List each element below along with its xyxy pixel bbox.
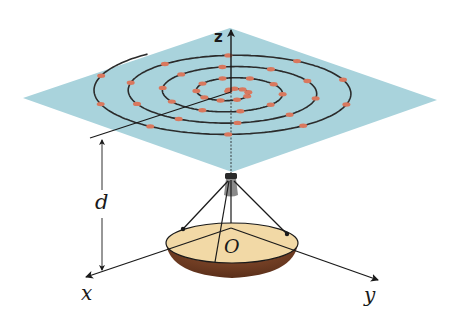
strut-left-mount: [181, 227, 185, 231]
spiral-marker: [200, 95, 208, 99]
spiral-marker: [175, 117, 183, 121]
spiral-marker: [133, 102, 141, 106]
spiral-marker: [342, 102, 350, 106]
feed-horn-cap: [225, 173, 237, 179]
spiral-marker: [192, 89, 200, 93]
spiral-marker: [236, 109, 244, 113]
spiral-marker: [270, 82, 278, 86]
spiral-marker: [293, 59, 301, 63]
z-axis-label: z: [214, 30, 223, 45]
spiral-marker: [234, 121, 242, 125]
spiral-marker: [161, 62, 169, 66]
diagram-svg: [0, 0, 459, 317]
spiral-marker: [246, 76, 254, 80]
spiral-marker: [198, 108, 206, 112]
spiral-marker: [244, 90, 252, 94]
spiral-marker: [127, 81, 135, 85]
y-axis-label: y: [364, 285, 375, 305]
spiral-marker: [177, 72, 185, 76]
spiral-marker: [219, 76, 227, 80]
spiral-marker: [233, 98, 241, 102]
spiral-marker: [146, 124, 154, 128]
spiral-marker: [97, 102, 105, 106]
spiral-marker: [199, 81, 207, 85]
spiral-marker: [218, 65, 226, 69]
spiral-marker: [279, 92, 287, 96]
spiral-marker: [243, 94, 251, 98]
spiral-marker: [168, 99, 176, 103]
spiral-marker: [97, 74, 105, 78]
spiral-marker: [267, 103, 275, 107]
spiral-marker: [299, 124, 307, 128]
distance-label: d: [95, 192, 108, 213]
spiral-marker: [224, 132, 232, 136]
spiral-marker: [159, 86, 167, 90]
x-axis-label: x: [81, 283, 92, 303]
spiral-marker: [312, 96, 320, 100]
strut-left: [183, 181, 228, 229]
diagram-canvas: z x y O d: [0, 0, 459, 317]
spiral-marker: [303, 79, 311, 83]
origin-label: O: [224, 237, 240, 256]
spiral-marker: [339, 78, 347, 82]
spiral-marker: [286, 113, 294, 117]
strut-right-mount: [285, 232, 289, 236]
spiral-marker: [267, 67, 275, 71]
spiral-marker: [217, 98, 225, 102]
